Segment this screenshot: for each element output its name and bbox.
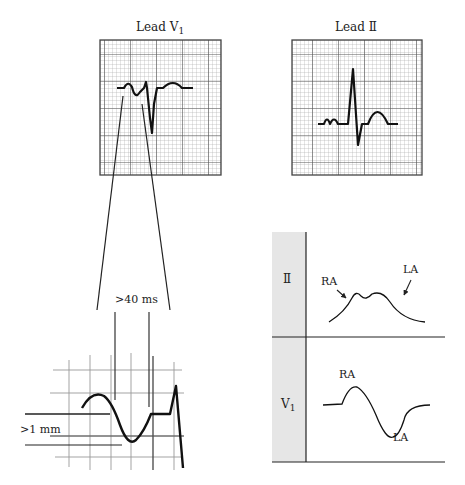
lead-ii-title: Lead Ⅱ	[335, 20, 377, 34]
duration-label: >40 ms	[115, 293, 158, 306]
magnified-detail: >40 ms >1 mm	[20, 293, 184, 470]
ra-label-v1: RA	[339, 368, 356, 381]
ii-p-wave	[329, 293, 425, 322]
detail-waveform	[82, 386, 183, 468]
lead-v1-strip: Lead V1	[100, 20, 221, 175]
v1-p-wave	[323, 387, 430, 438]
lead-ii-strip: Lead Ⅱ	[292, 20, 422, 175]
row-ii-lead: Ⅱ	[283, 272, 291, 286]
ecg-diagram: Lead V1 Lead Ⅱ >40 ms >1 mm	[0, 0, 465, 485]
p-wave-table: Ⅱ V1 RA LA RA LA	[272, 232, 445, 462]
ra-label-ii: RA	[321, 275, 338, 288]
la-label-ii: LA	[403, 263, 419, 276]
la-label-v1: LA	[393, 431, 409, 444]
lead-v1-title: Lead V1	[136, 20, 184, 36]
depth-label: >1 mm	[20, 423, 61, 436]
